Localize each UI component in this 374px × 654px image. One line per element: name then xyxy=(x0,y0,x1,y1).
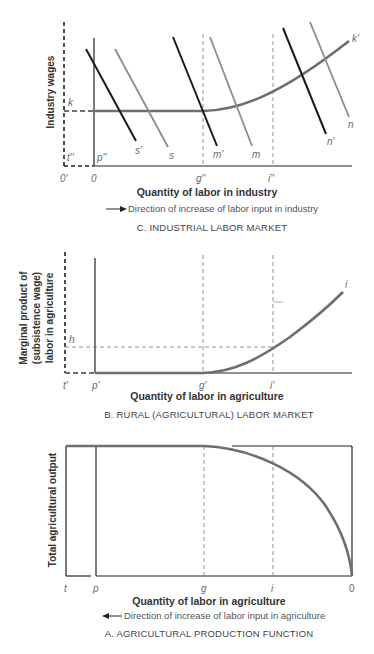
panel-c-tick-i2: i'' xyxy=(268,173,275,184)
panel-a-tick-t: t xyxy=(64,583,68,594)
panel-b-tick-p1: p' xyxy=(91,380,101,391)
panel-c-label-k-prime: k' xyxy=(352,33,360,44)
panel-b-y-axis-label-line3: labor in agriculture xyxy=(44,272,55,363)
panel-b-label-h: h xyxy=(69,334,75,345)
panel-b-y-axis-label-line2: (subsistence wage) xyxy=(31,272,42,364)
panel-c-label-n: n xyxy=(348,119,354,130)
panel-b-label-i: i xyxy=(345,279,348,290)
panel-c-x-axis-label: Quantity of labor in industry xyxy=(137,186,278,198)
panel-a-direction-note: Direction of increase of labor input in … xyxy=(124,610,325,621)
panel-a-left-arrow-icon xyxy=(102,613,122,619)
panel-c-line-s xyxy=(115,49,168,147)
panel-a-y-axis-label: Total agricultural output xyxy=(47,452,58,567)
panel-c-label-m-prime: m' xyxy=(213,149,224,160)
panel-c-direction-note: Direction of increase of labor input in … xyxy=(128,203,318,214)
panel-c-label-s: s xyxy=(169,150,174,161)
panel-b-y-axis-label-line1: Marginal product of xyxy=(18,271,29,365)
panel-a-tick-0: 0 xyxy=(349,583,355,594)
panel-c-label-s-prime: s' xyxy=(135,145,143,156)
panel-b-rural-labor-market: Marginal product of (subsistence wage) l… xyxy=(18,252,352,420)
panel-c-tick-g2: g'' xyxy=(196,173,206,184)
panel-c-industrial-labor-market: Industry wages k k' t'' p'' s' s m' m n'… xyxy=(45,22,360,233)
panel-c-tick-0-prime: 0' xyxy=(60,173,69,184)
panel-c-tick-0: 0 xyxy=(91,173,97,184)
panel-c-line-m xyxy=(210,37,252,146)
panel-c-line-n xyxy=(310,22,349,117)
panel-a-x-axis-label: Quantity of labor in agriculture xyxy=(132,595,286,607)
panel-c-y-axis-label: Industry wages xyxy=(45,55,56,128)
panel-b-marginal-product-curve xyxy=(95,292,343,373)
panel-c-caption: C. INDUSTRIAL LABOR MARKET xyxy=(137,222,288,233)
panel-c-label-n-prime: n' xyxy=(327,136,336,147)
panel-b-caption: B. RURAL (AGRICULTURAL) LABOR MARKET xyxy=(104,409,313,420)
panel-a-agricultural-production-function: Total agricultural output t p g i 0 Quan… xyxy=(47,446,355,639)
panel-a-tick-g: g xyxy=(201,583,207,594)
panel-a-total-product-curve xyxy=(66,446,352,576)
panel-c-label-m: m xyxy=(252,149,260,160)
panel-b-x-axis-label: Quantity of labor in agriculture xyxy=(130,390,284,402)
panel-a-tick-p: p xyxy=(92,583,99,594)
panel-c-supply-curve xyxy=(94,41,349,111)
panel-a-caption: A. AGRICULTURAL PRODUCTION FUNCTION xyxy=(105,628,314,639)
panel-c-line-m-prime xyxy=(173,37,217,146)
panel-c-label-p2: p'' xyxy=(96,152,107,163)
panel-b-tick-t1: t' xyxy=(63,380,69,391)
panel-a-tick-i: i xyxy=(271,583,274,594)
panel-c-label-k: k xyxy=(68,97,74,108)
panel-c-right-arrow-icon xyxy=(106,206,127,212)
panel-c-label-t2: t'' xyxy=(67,152,75,163)
